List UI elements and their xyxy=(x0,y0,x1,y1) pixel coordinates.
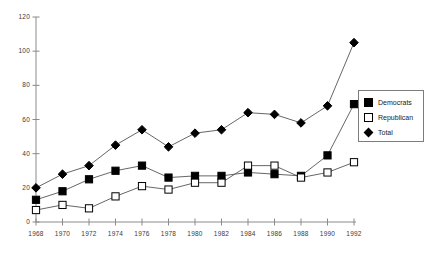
data-point-democrats xyxy=(32,196,39,203)
data-point-total xyxy=(217,125,226,134)
data-point-democrats xyxy=(271,171,278,178)
legend-item-label: Republican xyxy=(378,113,413,122)
x-tick-label: 1968 xyxy=(22,230,50,237)
x-tick-label: 1992 xyxy=(340,230,368,237)
legend-item-label: Democrats xyxy=(378,98,412,107)
x-tick-label: 1984 xyxy=(234,230,262,237)
data-point-democrats xyxy=(59,188,66,195)
data-point-republican xyxy=(138,183,145,190)
data-point-republican xyxy=(218,179,225,186)
data-point-total xyxy=(164,143,173,152)
data-point-total xyxy=(111,141,120,150)
legend-item-republican[interactable]: Republican xyxy=(364,110,423,125)
filled-diamond-icon xyxy=(364,128,374,138)
data-point-democrats xyxy=(138,162,145,169)
data-point-total xyxy=(297,119,306,128)
data-point-democrats xyxy=(324,152,331,159)
filled-square-icon xyxy=(364,98,373,107)
legend-item-democrats[interactable]: Democrats xyxy=(364,95,423,110)
data-point-republican xyxy=(271,162,278,169)
data-point-republican xyxy=(244,162,251,169)
data-point-republican xyxy=(350,159,357,166)
data-point-republican xyxy=(32,206,39,213)
y-tick-label: 80 xyxy=(2,81,30,88)
data-point-democrats xyxy=(350,101,357,108)
y-tick-label: 20 xyxy=(2,184,30,191)
y-tick-label: 0 xyxy=(2,218,30,225)
data-point-total xyxy=(138,125,147,134)
data-point-total xyxy=(323,102,332,111)
data-point-republican xyxy=(191,179,198,186)
data-point-democrats xyxy=(218,172,225,179)
series-group xyxy=(32,38,359,213)
x-tick-label: 1972 xyxy=(75,230,103,237)
axes-group xyxy=(33,17,357,226)
data-point-republican xyxy=(85,205,92,212)
x-tick-label: 1988 xyxy=(287,230,315,237)
x-tick-label: 1970 xyxy=(49,230,77,237)
legend-item-label: Total xyxy=(378,128,393,137)
data-point-republican xyxy=(112,193,119,200)
x-tick-label: 1986 xyxy=(261,230,289,237)
data-point-democrats xyxy=(191,172,198,179)
data-point-democrats xyxy=(112,167,119,174)
x-tick-label: 1990 xyxy=(314,230,342,237)
data-point-total xyxy=(85,161,94,170)
data-point-democrats xyxy=(244,169,251,176)
open-square-icon xyxy=(364,113,373,122)
x-tick-label: 1976 xyxy=(128,230,156,237)
data-point-total xyxy=(32,184,41,193)
y-tick-label: 60 xyxy=(2,116,30,123)
x-tick-label: 1980 xyxy=(181,230,209,237)
legend-item-total[interactable]: Total xyxy=(364,125,423,140)
x-tick-label: 1978 xyxy=(155,230,183,237)
data-point-democrats xyxy=(165,174,172,181)
data-point-total xyxy=(350,38,359,47)
data-point-total xyxy=(58,170,67,179)
y-tick-label: 40 xyxy=(2,150,30,157)
data-point-total xyxy=(270,110,279,119)
data-point-total xyxy=(191,129,200,138)
x-tick-label: 1974 xyxy=(102,230,130,237)
data-point-total xyxy=(244,108,253,117)
data-point-republican xyxy=(297,174,304,181)
data-point-republican xyxy=(59,201,66,208)
chart-container: 020406080100120 196819701972197419761978… xyxy=(0,0,427,255)
data-point-republican xyxy=(324,169,331,176)
data-point-democrats xyxy=(85,176,92,183)
y-tick-label: 100 xyxy=(2,47,30,54)
y-tick-label: 120 xyxy=(2,13,30,20)
data-point-republican xyxy=(165,186,172,193)
x-tick-label: 1982 xyxy=(208,230,236,237)
series-line-total xyxy=(36,43,354,188)
legend: DemocratsRepublicanTotal xyxy=(358,90,424,142)
